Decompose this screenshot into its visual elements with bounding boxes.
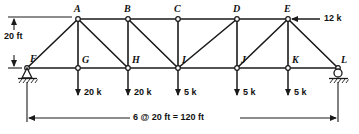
- member-I-D: [178, 19, 237, 68]
- joint-label-G: G: [82, 55, 89, 65]
- joint-A: [76, 17, 81, 22]
- load-label-J: 5 k: [243, 88, 256, 97]
- dimension-height-label: 20 ft: [4, 32, 23, 41]
- joint-H: [126, 66, 131, 71]
- joint-label-H: H: [132, 55, 140, 65]
- support-pin-F: [18, 68, 38, 83]
- joint-K: [286, 66, 291, 71]
- load-label-E-horizontal: 12 k: [324, 14, 342, 23]
- joint-label-C: C: [174, 4, 181, 14]
- joint-label-E: E: [284, 4, 291, 14]
- load-arrows: [78, 19, 320, 95]
- support-roller-L: [329, 69, 349, 83]
- joint-I: [176, 66, 181, 71]
- joint-label-A: A: [74, 4, 81, 14]
- joint-B: [126, 17, 131, 22]
- truss-diagram-figure: A B C D E F G H I J K L 20 k 20 k 5 k 5 …: [0, 0, 359, 134]
- joint-D: [235, 17, 240, 22]
- joint-label-D: D: [233, 4, 240, 14]
- load-label-H: 20 k: [134, 88, 152, 97]
- dimension-height: [8, 17, 72, 68]
- joint-label-B: B: [124, 4, 131, 14]
- joint-G: [76, 66, 81, 71]
- joint-E: [286, 17, 291, 22]
- load-label-I: 5 k: [184, 88, 197, 97]
- dimension-span-label: 6 @ 20 ft = 120 ft: [131, 113, 206, 122]
- joint-label-F: F: [30, 54, 37, 64]
- joint-label-J: J: [241, 55, 246, 65]
- joint-label-I: I: [182, 55, 186, 65]
- load-label-K: 5 k: [294, 88, 307, 97]
- joint-J: [235, 66, 240, 71]
- joint-label-L: L: [341, 55, 347, 65]
- joint-label-K: K: [292, 55, 299, 65]
- joint-C: [176, 17, 181, 22]
- load-label-G: 20 k: [84, 88, 102, 97]
